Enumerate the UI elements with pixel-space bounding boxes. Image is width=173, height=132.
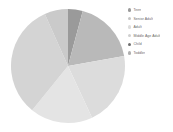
legend-marker-icon [128,8,131,11]
legend-item-label: Adult [133,25,141,29]
legend-item-label: Senior Adult [133,17,152,21]
legend-marker-icon [128,34,131,37]
legend-item-child[interactable]: Child [127,40,173,48]
legend-item-teen[interactable]: Teen [127,6,173,14]
legend-marker-icon [128,25,131,28]
chart-plot-area [0,0,126,132]
legend-marker-icon [128,51,131,54]
legend-item-label: Teen [133,8,141,12]
pie-svg [0,0,126,132]
legend-item-label: Middle Age Adult [133,34,160,38]
legend-item-middle-age-adult[interactable]: Middle Age Adult [127,32,173,40]
legend-item-adult[interactable]: Adult [127,23,173,31]
pie-chart-figure: Teen Senior Adult Adult Middle Age Adult… [0,0,173,132]
chart-legend: Teen Senior Adult Adult Middle Age Adult… [127,6,173,58]
legend-item-label: Child [133,42,141,46]
legend-marker-icon [128,17,131,20]
legend-marker-icon [128,43,131,46]
legend-item-senior-adult[interactable]: Senior Adult [127,15,173,23]
legend-item-label: Toddler [133,51,145,55]
legend-item-toddler[interactable]: Toddler [127,49,173,57]
